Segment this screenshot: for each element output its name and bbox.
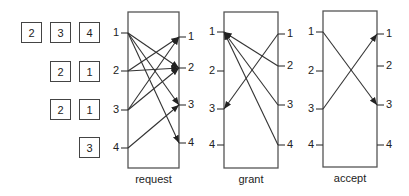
stage-box [224, 12, 278, 168]
edge-arrow [224, 34, 278, 109]
stage-caption: grant [221, 173, 281, 185]
right-port-label: 2 [386, 60, 392, 71]
right-port-label: 4 [188, 137, 194, 148]
stage-grant [217, 12, 285, 168]
stage-request [121, 12, 186, 168]
left-port-label: 4 [308, 139, 314, 150]
edge-arrow [128, 37, 179, 71]
edge-arrow [128, 37, 179, 110]
stage-caption: accept [320, 172, 380, 184]
right-port-label: 4 [386, 139, 392, 150]
left-port-label: 2 [113, 65, 119, 76]
right-port-label: 3 [188, 99, 194, 110]
right-port-label: 1 [386, 28, 392, 39]
right-port-label: 2 [188, 62, 194, 73]
stage-caption: request [124, 173, 184, 185]
stage-box [323, 11, 377, 167]
right-port-label: 1 [188, 31, 194, 42]
edge-arrow [323, 34, 377, 109]
right-port-label: 3 [287, 99, 293, 110]
left-port-label: 2 [209, 65, 215, 76]
right-port-label: 3 [386, 99, 392, 110]
left-port-label: 4 [209, 139, 215, 150]
left-port-label: 3 [209, 103, 215, 114]
edge-arrow [323, 32, 377, 105]
edge-arrow [224, 32, 278, 105]
stage-diagram-canvas [0, 0, 409, 196]
left-port-label: 3 [308, 103, 314, 114]
left-port-label: 4 [113, 142, 119, 153]
left-port-label: 1 [113, 27, 119, 38]
left-port-label: 1 [209, 26, 215, 37]
right-port-label: 1 [287, 28, 293, 39]
left-port-label: 2 [308, 65, 314, 76]
stage-box [128, 12, 179, 168]
left-port-label: 1 [308, 26, 314, 37]
left-port-label: 3 [113, 104, 119, 115]
right-port-label: 4 [287, 139, 293, 150]
right-port-label: 2 [287, 60, 293, 71]
stage-accept [316, 11, 384, 167]
